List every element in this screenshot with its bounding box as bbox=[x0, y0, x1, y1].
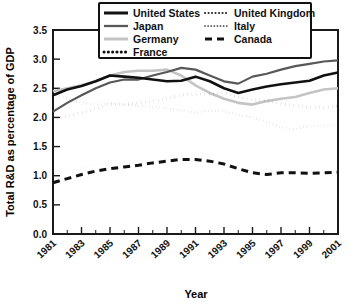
y-tick-label: 0.5 bbox=[33, 199, 47, 210]
y-axis-tick-labels: 0.00.51.01.52.02.53.03.5 bbox=[33, 25, 47, 240]
x-tick-label: 1991 bbox=[177, 237, 201, 260]
x-tick-label: 1987 bbox=[120, 237, 144, 260]
x-tick-label: 1997 bbox=[262, 237, 286, 260]
x-tick-label: 1989 bbox=[148, 237, 172, 260]
data-series-group bbox=[53, 60, 338, 182]
y-tick-label: 1.0 bbox=[33, 170, 47, 181]
x-tick-label: 1983 bbox=[63, 237, 87, 260]
y-tick-label: 1.5 bbox=[33, 141, 47, 152]
x-tick-label: 1981 bbox=[34, 237, 58, 260]
x-tick-label: 1999 bbox=[291, 237, 315, 260]
y-axis-title: Total R&D as percentage of GDP bbox=[4, 47, 16, 217]
x-tick-label: 1995 bbox=[234, 237, 258, 260]
y-axis-ticks bbox=[53, 30, 60, 234]
legend-label-japan: Japan bbox=[133, 20, 163, 32]
x-axis-title: Year bbox=[184, 288, 208, 300]
series-line-united-kingdom bbox=[53, 94, 338, 129]
chart-legend: United StatesUnited KingdomJapanItalyGer… bbox=[99, 3, 315, 58]
legend-label-france: France bbox=[133, 46, 168, 58]
y-tick-label: 3.5 bbox=[33, 25, 47, 36]
x-tick-label: 1985 bbox=[91, 237, 115, 260]
legend-label-germany: Germany bbox=[133, 33, 179, 45]
legend-label-united-states: United States bbox=[133, 7, 200, 19]
legend-label-canada: Canada bbox=[234, 33, 272, 45]
legend-label-italy: Italy bbox=[234, 20, 255, 32]
rd-gdp-line-chart: 0.00.51.01.52.02.53.03.5 198119831985198… bbox=[0, 0, 355, 305]
x-axis-tick-labels: 1981198319851987198919911993199519971999… bbox=[34, 237, 343, 260]
x-tick-label: 1993 bbox=[205, 237, 229, 260]
x-tick-label: 2001 bbox=[319, 237, 343, 260]
y-tick-label: 2.0 bbox=[33, 112, 47, 123]
series-line-canada bbox=[53, 159, 338, 182]
x-axis-ticks bbox=[53, 227, 338, 234]
plot-border bbox=[53, 30, 338, 234]
plot-frame bbox=[53, 30, 338, 234]
legend-label-united-kingdom: United Kingdom bbox=[234, 7, 315, 19]
chart-canvas: 0.00.51.01.52.02.53.03.5 198119831985198… bbox=[0, 0, 355, 305]
y-tick-label: 2.5 bbox=[33, 83, 47, 94]
y-tick-label: 0.0 bbox=[33, 229, 47, 240]
y-tick-label: 3.0 bbox=[33, 54, 47, 65]
